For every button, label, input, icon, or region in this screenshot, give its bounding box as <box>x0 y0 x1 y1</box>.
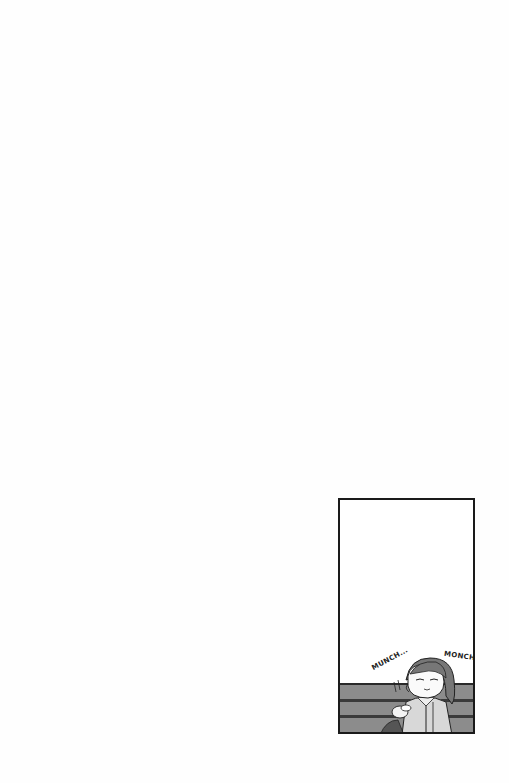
comic-panel: MUNCH... MONCH <box>338 498 475 734</box>
comic-page: MUNCH... MONCH <box>0 0 509 783</box>
eating-character-illustration <box>380 650 470 734</box>
